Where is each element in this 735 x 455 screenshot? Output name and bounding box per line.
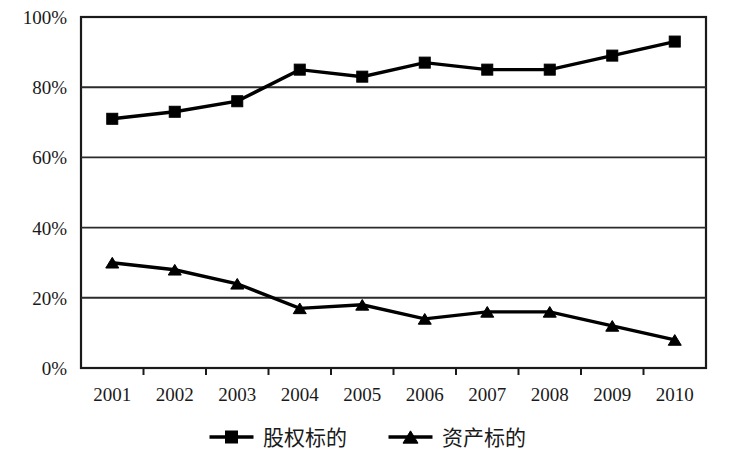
square-marker-icon [232, 96, 243, 107]
x-axis-tick-label: 2004 [281, 384, 320, 405]
y-axis-tick-label: 0% [42, 358, 68, 379]
x-axis-tick-label: 2006 [406, 384, 444, 405]
line-chart-canvas: 0%20%40%60%80%100%2001200220032004200520… [0, 0, 735, 455]
square-marker-icon [357, 71, 368, 82]
square-marker-icon [419, 57, 430, 68]
y-axis-tick-label: 60% [32, 147, 67, 168]
y-axis-tick-label: 40% [32, 218, 67, 239]
square-marker-icon [544, 64, 555, 75]
x-axis-tick-label: 2005 [343, 384, 381, 405]
x-axis-tick-label: 2008 [531, 384, 569, 405]
legend-item-equity[interactable]: 股权标的 [210, 426, 347, 450]
square-marker-icon [607, 50, 618, 61]
x-axis-tick-label: 2009 [593, 384, 631, 405]
square-marker-icon [226, 431, 238, 443]
square-marker-icon [294, 64, 305, 75]
legend-label: 股权标的 [263, 426, 347, 450]
chart-figure: 0%20%40%60%80%100%2001200220032004200520… [0, 0, 735, 455]
x-axis-tick-label: 2002 [156, 384, 194, 405]
x-axis-tick-label: 2010 [656, 384, 694, 405]
square-marker-icon [482, 64, 493, 75]
square-marker-icon [669, 36, 680, 47]
square-marker-icon [107, 113, 118, 124]
y-axis-tick-label: 100% [23, 7, 68, 28]
x-axis-tick-label: 2001 [93, 384, 131, 405]
legend-label: 资产标的 [442, 426, 526, 450]
x-axis-tick-label: 2003 [218, 384, 256, 405]
legend-item-asset[interactable]: 资产标的 [389, 426, 526, 450]
y-axis-tick-label: 80% [32, 77, 67, 98]
y-axis-tick-label: 20% [32, 288, 67, 309]
square-marker-icon [169, 106, 180, 117]
x-axis-tick-label: 2007 [468, 384, 506, 405]
legend: 股权标的资产标的 [210, 426, 526, 450]
